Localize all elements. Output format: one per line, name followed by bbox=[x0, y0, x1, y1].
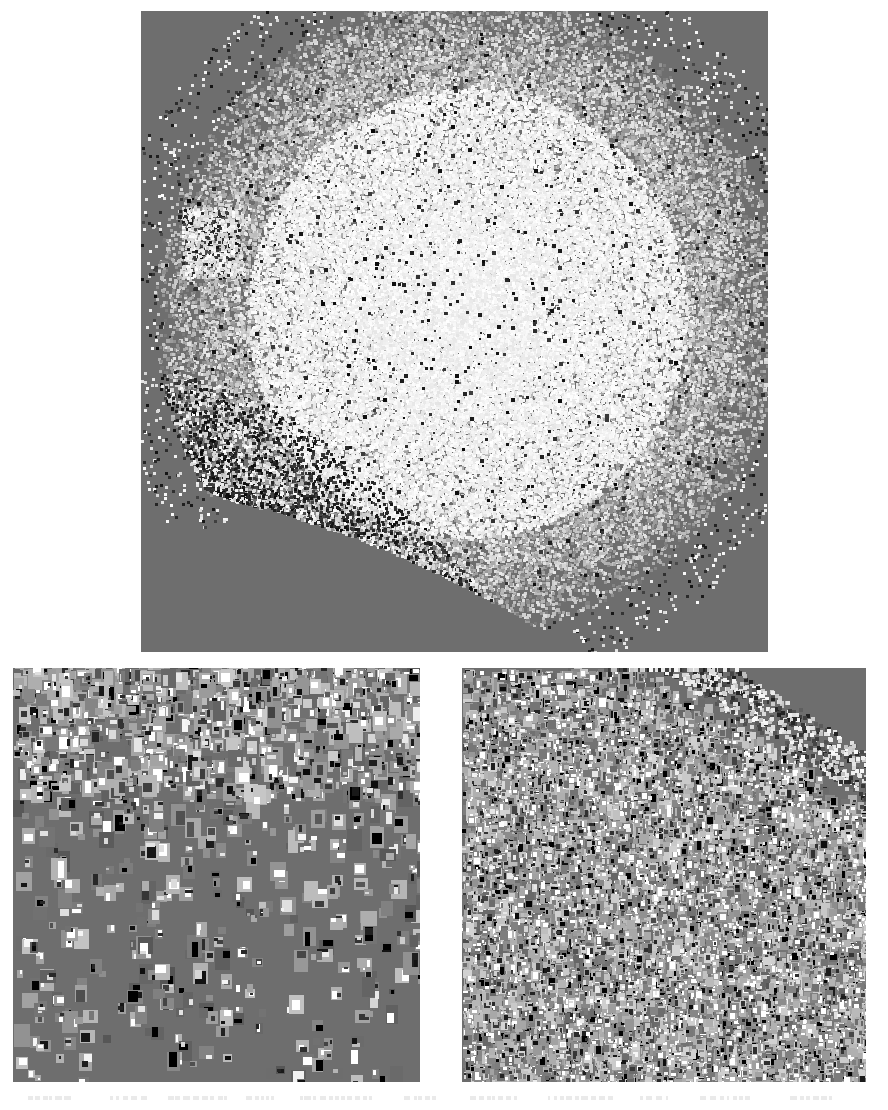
caption-text-fragment bbox=[55, 1096, 62, 1100]
caption-text-fragment bbox=[813, 1096, 819, 1100]
caption-text-fragment bbox=[43, 1096, 48, 1100]
caption-text-fragment bbox=[64, 1096, 71, 1100]
caption-text-fragment bbox=[246, 1096, 252, 1100]
caption-text-fragment bbox=[790, 1096, 797, 1100]
caption-text-fragment bbox=[261, 1096, 264, 1100]
caption-text-fragment bbox=[727, 1096, 729, 1100]
caption-text-fragment bbox=[175, 1096, 180, 1100]
caption-text-fragment bbox=[255, 1096, 259, 1100]
figure-root bbox=[0, 0, 888, 1110]
caption-text-fragment bbox=[123, 1096, 128, 1100]
caption-text-fragment bbox=[131, 1096, 137, 1100]
dense-detail-panel bbox=[462, 668, 866, 1082]
caption-text-fragment bbox=[369, 1096, 372, 1100]
overview-embedding-canvas bbox=[141, 11, 768, 652]
caption-text-fragment bbox=[506, 1096, 511, 1100]
caption-text-fragment bbox=[300, 1096, 303, 1100]
caption-text-fragment bbox=[404, 1096, 410, 1100]
caption-text-fragment bbox=[304, 1096, 311, 1100]
caption-text-fragment bbox=[110, 1096, 113, 1100]
caption-text-fragment bbox=[49, 1096, 52, 1100]
caption-text-fragment bbox=[720, 1096, 724, 1100]
caption-text-fragment bbox=[739, 1096, 743, 1100]
caption-text-fragment bbox=[329, 1096, 333, 1100]
caption-text-fragment bbox=[28, 1096, 33, 1100]
caption-text-fragment bbox=[591, 1096, 596, 1100]
overview-embedding-panel bbox=[141, 11, 768, 652]
caption-text-fragment bbox=[666, 1096, 668, 1100]
caption-text-fragment bbox=[492, 1096, 495, 1100]
caption-text-fragment bbox=[745, 1096, 750, 1100]
caption-text-fragment bbox=[425, 1096, 430, 1100]
caption-text-fragment bbox=[800, 1096, 804, 1100]
caption-text-fragment bbox=[414, 1096, 417, 1100]
caption-text-fragment bbox=[829, 1096, 832, 1100]
caption-text-fragment bbox=[514, 1096, 517, 1100]
caption-text-fragment bbox=[806, 1096, 810, 1100]
caption-text-fragment bbox=[271, 1096, 274, 1100]
sparse-detail-panel bbox=[13, 668, 420, 1082]
caption-text-fragment bbox=[479, 1096, 484, 1100]
caption-text-fragment bbox=[202, 1096, 208, 1100]
caption-text-fragment bbox=[355, 1096, 360, 1100]
caption-text-fragment bbox=[266, 1096, 269, 1100]
caption-text-fragment bbox=[418, 1096, 422, 1100]
caption-text-fragment bbox=[700, 1096, 706, 1100]
caption-text-fragment bbox=[487, 1096, 491, 1100]
caption-text-fragment bbox=[313, 1096, 316, 1100]
caption-text-fragment bbox=[575, 1096, 579, 1100]
caption-text-fragment bbox=[116, 1096, 119, 1100]
caption-text-fragment bbox=[548, 1096, 550, 1100]
caption-text-fragment bbox=[560, 1096, 564, 1100]
caption-text-fragment bbox=[733, 1096, 737, 1100]
caption-text-fragment bbox=[599, 1096, 605, 1100]
caption-text-fragment bbox=[581, 1096, 588, 1100]
caption-text-fragment bbox=[210, 1096, 214, 1100]
caption-text-fragment bbox=[193, 1096, 199, 1100]
caption-text-fragment bbox=[224, 1096, 227, 1100]
caption-text-fragment bbox=[432, 1096, 436, 1100]
caption-text-fragment bbox=[554, 1096, 557, 1100]
caption-text-fragment bbox=[168, 1096, 174, 1100]
caption-text-fragment bbox=[320, 1096, 326, 1100]
sparse-detail-canvas bbox=[13, 668, 420, 1082]
caption-text-fragment bbox=[566, 1096, 572, 1100]
caption-text-fragment bbox=[347, 1096, 352, 1100]
caption-text-fragment bbox=[646, 1096, 652, 1100]
caption-text-fragment bbox=[141, 1096, 147, 1100]
caption-text-fragment bbox=[218, 1096, 223, 1100]
caption-text-fragment bbox=[640, 1096, 643, 1100]
caption-text-fragment bbox=[498, 1096, 503, 1100]
caption-text-fragment bbox=[710, 1096, 716, 1100]
caption-text-fragment bbox=[183, 1096, 190, 1100]
caption-text-fragment bbox=[821, 1096, 827, 1100]
caption-text-fragment bbox=[470, 1096, 476, 1100]
caption-text-fragment bbox=[656, 1096, 662, 1100]
caption-text-fragment bbox=[341, 1096, 345, 1100]
caption-strip bbox=[0, 1096, 888, 1110]
caption-text-fragment bbox=[608, 1096, 613, 1100]
caption-text-fragment bbox=[363, 1096, 367, 1100]
caption-text-fragment bbox=[35, 1096, 40, 1100]
dense-detail-canvas bbox=[462, 668, 866, 1082]
caption-text-fragment bbox=[335, 1096, 339, 1100]
